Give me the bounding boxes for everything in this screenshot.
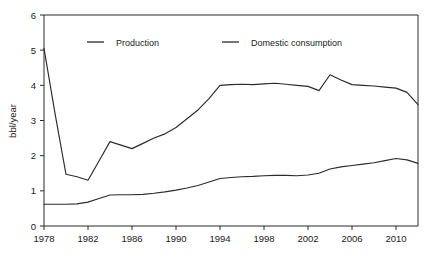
line-chart: 0123456 19781982198619901994199820022006… xyxy=(0,0,431,264)
x-tick-label: 1998 xyxy=(253,233,274,244)
x-tick-label: 2006 xyxy=(341,233,362,244)
series-line-1 xyxy=(44,48,418,180)
legend-label-2: Domestic consumption xyxy=(251,38,342,48)
x-tick-label: 1994 xyxy=(209,233,230,244)
chart-svg: 0123456 19781982198619901994199820022006… xyxy=(0,0,431,264)
series-lines xyxy=(44,48,418,204)
y-axis-title: bbl/year xyxy=(7,104,18,138)
x-tick-label: 1978 xyxy=(33,233,54,244)
plot-frame xyxy=(44,15,418,226)
chart-legend: ProductionDomestic consumption xyxy=(87,38,342,48)
y-tick-label: 1 xyxy=(31,185,36,196)
y-tick-label: 4 xyxy=(31,80,36,91)
y-tick-label: 0 xyxy=(31,221,36,232)
series-line-2 xyxy=(44,158,418,204)
y-axis-ticks: 0123456 xyxy=(31,10,44,232)
axis-box xyxy=(44,15,418,226)
y-tick-label: 3 xyxy=(31,115,36,126)
y-tick-label: 2 xyxy=(31,150,36,161)
x-axis-ticks: 197819821986199019941998200220062010 xyxy=(33,226,406,244)
x-tick-label: 2010 xyxy=(385,233,406,244)
x-tick-label: 1990 xyxy=(165,233,186,244)
x-tick-label: 1986 xyxy=(121,233,142,244)
x-tick-label: 2002 xyxy=(297,233,318,244)
legend-label-1: Production xyxy=(116,38,159,48)
y-tick-label: 6 xyxy=(31,10,36,21)
x-tick-label: 1982 xyxy=(77,233,98,244)
y-tick-label: 5 xyxy=(31,45,36,56)
